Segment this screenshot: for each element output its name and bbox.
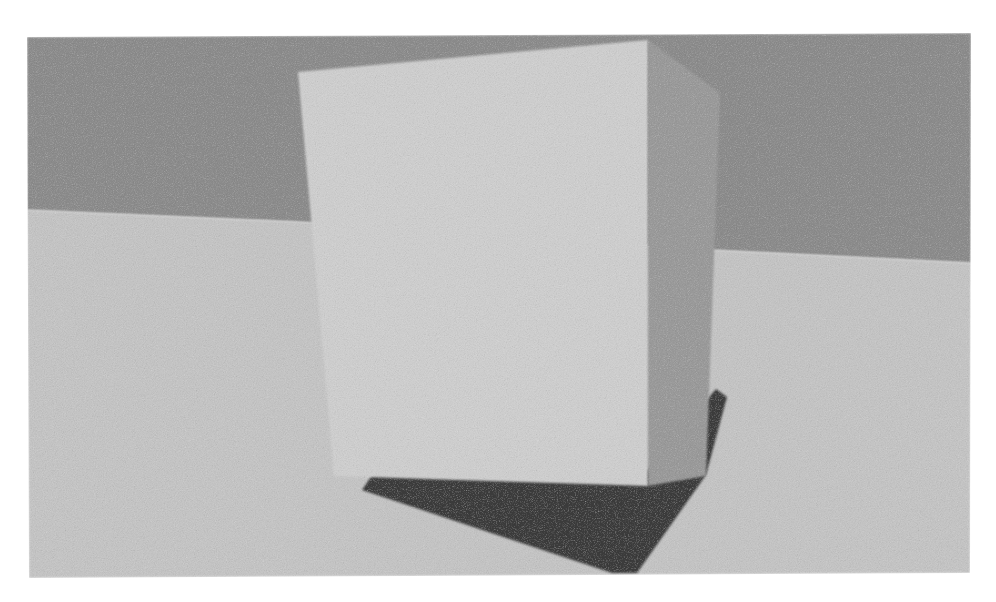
box-front-face <box>298 40 648 486</box>
render-stage <box>0 0 996 602</box>
3d-scene-render <box>0 0 996 602</box>
scene-geometry <box>27 33 971 578</box>
